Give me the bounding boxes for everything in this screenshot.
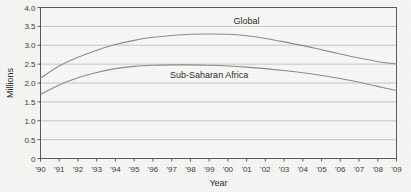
y-tick-label: 3.0 <box>24 41 36 50</box>
x-tick-label: '08 <box>373 165 384 174</box>
x-tick-label: '00 <box>223 165 234 174</box>
x-tick-label: '06 <box>335 165 346 174</box>
x-tick-label: '94 <box>110 165 121 174</box>
x-tick-label: '95 <box>129 165 140 174</box>
x-tick-label: '07 <box>354 165 365 174</box>
series-label: Sub-Saharan Africa <box>170 70 248 80</box>
x-tick-label: '03 <box>279 165 290 174</box>
x-tick-label: '09 <box>391 165 402 174</box>
x-tick-label: '99 <box>204 165 215 174</box>
x-axis-title: Year <box>209 178 227 188</box>
x-tick-label: '98 <box>185 165 196 174</box>
y-tick-label: 1.0 <box>24 117 36 126</box>
y-tick-label: 2.0 <box>24 79 36 88</box>
x-tick-label: '01 <box>241 165 252 174</box>
x-tick-label: '97 <box>166 165 177 174</box>
x-tick-label: '93 <box>91 165 102 174</box>
x-tick-label: '90 <box>35 165 46 174</box>
y-tick-label: 3.5 <box>24 22 36 31</box>
y-tick-label: 1.5 <box>24 98 36 107</box>
y-tick-label: 0.5 <box>24 136 36 145</box>
x-tick-label: '92 <box>73 165 84 174</box>
line-chart: 00.51.01.52.02.53.03.54.0'90'91'92'93'94… <box>0 0 411 192</box>
series-label: Global <box>234 16 260 26</box>
y-axis-title: Millions <box>5 68 15 99</box>
y-tick-label: 2.5 <box>24 60 36 69</box>
x-tick-label: '04 <box>298 165 309 174</box>
chart-figure: 00.51.01.52.02.53.03.54.0'90'91'92'93'94… <box>0 0 411 192</box>
x-tick-label: '91 <box>54 165 65 174</box>
x-tick-label: '02 <box>260 165 271 174</box>
y-tick-label: 4.0 <box>24 4 36 13</box>
x-tick-label: '96 <box>148 165 159 174</box>
y-tick-label: 0 <box>31 155 36 164</box>
x-tick-label: '05 <box>316 165 327 174</box>
